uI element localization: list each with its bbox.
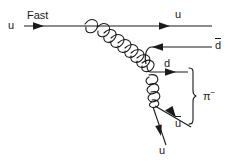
pion-grouping-brace — [189, 68, 196, 124]
arrowhead-d — [165, 68, 176, 76]
label-d-outgoing: d — [164, 58, 170, 69]
arrowhead-ubar — [165, 106, 176, 118]
arrowhead-u-incoming — [33, 22, 44, 30]
gluon-spring-main — [85, 20, 154, 72]
feynman-diagram-canvas: Fast u u d d u u π− — [0, 0, 235, 164]
dbar-line — [145, 47, 212, 64]
label-u-bottom: u — [159, 145, 165, 156]
label-dbar-incoming: d — [215, 40, 221, 51]
arrowhead-u-outgoing — [159, 22, 170, 30]
label-u-incoming: u — [8, 20, 14, 31]
label-pion-symbol: π — [203, 90, 211, 102]
gluon-spring-lower — [146, 75, 160, 108]
label-u-outgoing: u — [175, 9, 181, 20]
arrowhead-dbar — [152, 43, 163, 51]
feynman-diagram-svg — [0, 0, 235, 164]
arrowhead-u-bottom — [155, 124, 162, 136]
label-pion: π− — [203, 89, 215, 102]
label-pion-charge: − — [211, 88, 216, 97]
label-ubar-outgoing: u — [175, 118, 181, 129]
label-fast: Fast — [27, 10, 48, 21]
